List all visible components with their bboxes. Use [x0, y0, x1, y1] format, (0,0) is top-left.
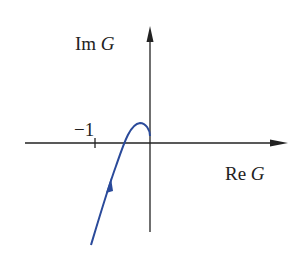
- real-axis-arrow-icon: [270, 140, 288, 147]
- nyquist-curve: [91, 123, 150, 245]
- imaginary-axis-arrow-icon: [147, 26, 154, 42]
- imaginary-axis-label: Im G: [75, 33, 115, 54]
- tick-label-minus-one: −1: [74, 119, 94, 140]
- nyquist-diagram: Im G Re G −1: [0, 0, 301, 260]
- real-axis-label: Re G: [225, 163, 265, 184]
